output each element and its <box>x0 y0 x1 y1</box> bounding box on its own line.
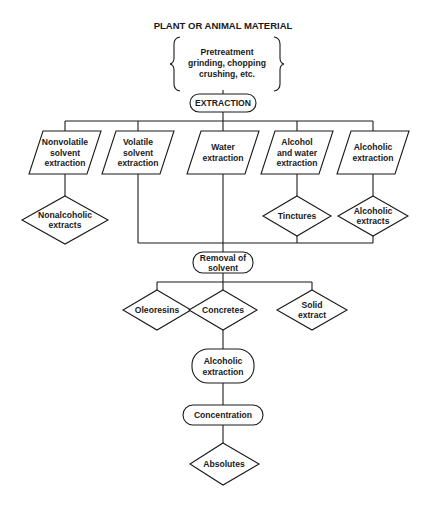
product-label: Solid <box>301 300 322 310</box>
title: PLANT OR ANIMAL MATERIAL <box>154 20 293 31</box>
left-brace <box>170 37 180 91</box>
extraction-node: EXTRACTION <box>190 94 256 112</box>
method-label: solvent <box>123 148 153 158</box>
alcoholic-extraction-pill <box>192 349 254 383</box>
solvent-product-node: Oleoresins <box>123 290 191 330</box>
solvent-product-node: Solidextract <box>277 290 347 330</box>
method-product-node: Nonalcoholicextracts <box>22 196 108 244</box>
product-label: extracts <box>357 216 390 226</box>
method-label: extraction <box>276 158 317 168</box>
method-label: extraction <box>117 158 158 168</box>
alcoholic-extraction-label: extraction <box>202 367 243 377</box>
absolutes-node: Absolutes <box>190 443 259 485</box>
product-label: Nonalcoholic <box>38 210 92 220</box>
method-label: and water <box>277 148 318 158</box>
product-label: Oleoresins <box>135 305 180 315</box>
pretreatment-line: grinding, chopping <box>188 58 266 68</box>
product-label: Tinctures <box>278 211 317 221</box>
method-label: Nonvolatile <box>42 137 89 147</box>
method-label: extraction <box>352 153 393 163</box>
product-label: Alcoholic <box>354 206 393 216</box>
removal-label: Removal of <box>200 253 246 263</box>
extraction-methods: NonvolatilesolventextractionVolatilesolv… <box>29 131 409 174</box>
alcoholic-extraction-node: Alcoholic extraction <box>192 349 254 383</box>
extraction-label: EXTRACTION <box>195 98 251 108</box>
method-product-node: Alcoholicextracts <box>338 196 408 236</box>
method-node: Waterextraction <box>187 131 259 174</box>
method-node: Alcoholicextraction <box>337 131 409 174</box>
pretreatment-line: Pretreatment <box>200 47 253 57</box>
solvent-product-node: Concretes <box>189 290 257 330</box>
product-label: extract <box>298 310 326 320</box>
method-node: Nonvolatilesolventextraction <box>29 131 101 174</box>
solvent-products: OleoresinsConcretesSolidextract <box>123 290 347 330</box>
method-node: Alcoholand waterextraction <box>261 131 333 174</box>
pretreatment-group: Pretreatment grinding, chopping crushing… <box>170 37 284 91</box>
method-label: extraction <box>44 158 85 168</box>
concentration-node: Concentration <box>183 405 263 425</box>
alcoholic-extraction-label: Alcoholic <box>204 356 243 366</box>
method-products: NonalcoholicextractsTincturesAlcoholicex… <box>22 196 408 244</box>
concentration-label: Concentration <box>194 410 252 420</box>
right-brace <box>274 37 284 91</box>
method-label: Water <box>211 142 235 152</box>
pretreatment-line: crushing, etc. <box>199 69 255 79</box>
flowchart: PLANT OR ANIMAL MATERIAL Pretreatment gr… <box>0 0 432 509</box>
method-node: Volatilesolventextraction <box>102 131 174 174</box>
method-label: solvent <box>50 148 80 158</box>
product-label: Concretes <box>202 305 244 315</box>
method-product-node: Tinctures <box>263 196 331 236</box>
method-label: Alcohol <box>281 137 313 147</box>
method-label: Alcoholic <box>354 142 393 152</box>
product-label: extracts <box>49 220 82 230</box>
absolutes-label: Absolutes <box>203 459 245 469</box>
method-label: Volatile <box>123 137 153 147</box>
removal-node: Removal of solvent <box>193 252 253 273</box>
removal-label: solvent <box>208 263 238 273</box>
method-label: extraction <box>202 153 243 163</box>
